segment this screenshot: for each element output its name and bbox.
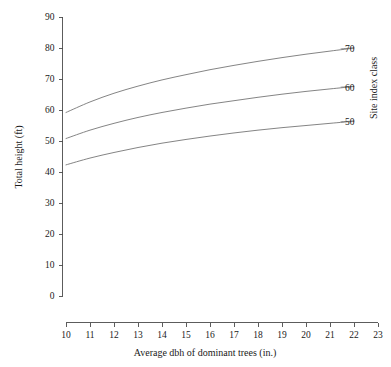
- y-axis-tick-label: 40: [45, 167, 55, 177]
- x-axis-tick-label: 19: [277, 330, 287, 340]
- chart-container: 0102030405060708090 Total height (ft) 10…: [0, 0, 391, 367]
- x-axis-tick-label: 11: [85, 330, 94, 340]
- y-axis-tick-label: 70: [45, 74, 55, 84]
- x-axis-tick-label: 10: [61, 330, 71, 340]
- x-axis-tick-label: 21: [325, 330, 335, 340]
- y-axis-tick-label: 10: [45, 260, 55, 270]
- series-labels-group: 706050: [345, 44, 355, 127]
- y-axis-tick-labels: 0102030405060708090: [45, 12, 55, 301]
- y-axis: 0102030405060708090 Total height (ft): [13, 12, 63, 301]
- y-axis-tick-label: 80: [45, 43, 55, 53]
- y-axis-ticks: [59, 17, 63, 296]
- x-axis-tick-label: 16: [205, 330, 215, 340]
- y-axis-tick-label: 20: [45, 229, 55, 239]
- x-axis-tick-label: 14: [157, 330, 167, 340]
- x-axis-tick-labels: 1011121314151617181920212223: [61, 330, 383, 340]
- x-axis-tick-label: 13: [133, 330, 143, 340]
- x-axis-tick-label: 12: [109, 330, 119, 340]
- x-axis-tick-label: 20: [301, 330, 311, 340]
- x-axis-tick-label: 18: [253, 330, 263, 340]
- y-axis-tick-label: 60: [45, 105, 55, 115]
- series-line-50: [66, 121, 354, 165]
- x-axis-tick-label: 23: [373, 330, 383, 340]
- y-axis-tick-label: 90: [45, 12, 55, 22]
- series-line-70: [66, 48, 354, 113]
- y-axis-tick-label: 0: [50, 291, 55, 301]
- x-axis-tick-label: 17: [229, 330, 239, 340]
- series-label-70: 70: [345, 44, 355, 54]
- x-axis: 1011121314151617181920212223 Average dbh…: [61, 323, 383, 360]
- y-axis-title: Total height (ft): [13, 125, 25, 188]
- legend-title: Site index class: [368, 57, 379, 119]
- line-chart: 0102030405060708090 Total height (ft) 10…: [0, 0, 391, 367]
- series-label-50: 50: [345, 117, 355, 127]
- series-line-60: [66, 86, 354, 138]
- x-axis-ticks: [66, 323, 378, 328]
- data-series-group: [66, 48, 354, 165]
- y-axis-tick-label: 30: [45, 198, 55, 208]
- x-axis-title: Average dbh of dominant trees (in.): [134, 347, 277, 359]
- series-label-60: 60: [345, 83, 355, 93]
- x-axis-tick-label: 15: [181, 330, 191, 340]
- y-axis-tick-label: 50: [45, 136, 55, 146]
- x-axis-tick-label: 22: [349, 330, 359, 340]
